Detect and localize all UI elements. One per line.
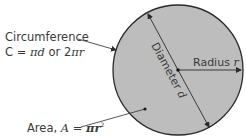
radius-var: r: [233, 56, 239, 69]
formula-or: or 2: [45, 45, 71, 59]
circumference-formula: C = πd or 2πr: [5, 45, 86, 59]
area-dot: [143, 107, 146, 110]
area-eq: =: [69, 121, 86, 135]
radius-word: Radius: [193, 56, 233, 69]
area-exponent: 2: [101, 121, 105, 128]
radius-label: Radius r: [193, 56, 239, 69]
circumference-label: Circumference: [5, 30, 89, 44]
circle-diagram: Circumference C = πd or 2πr Radius r Dia…: [0, 0, 246, 137]
area-prefix: Area,: [27, 121, 61, 135]
formula-prefix: C =: [5, 45, 30, 59]
area-var: A: [60, 121, 69, 135]
formula-pi-d: πd: [29, 45, 45, 59]
formula-pi-r: πr: [70, 45, 86, 59]
area-label: Area, A = πr2: [27, 121, 105, 135]
area-formula: πr: [85, 121, 101, 135]
circumference-label-text: Circumference: [5, 30, 89, 44]
